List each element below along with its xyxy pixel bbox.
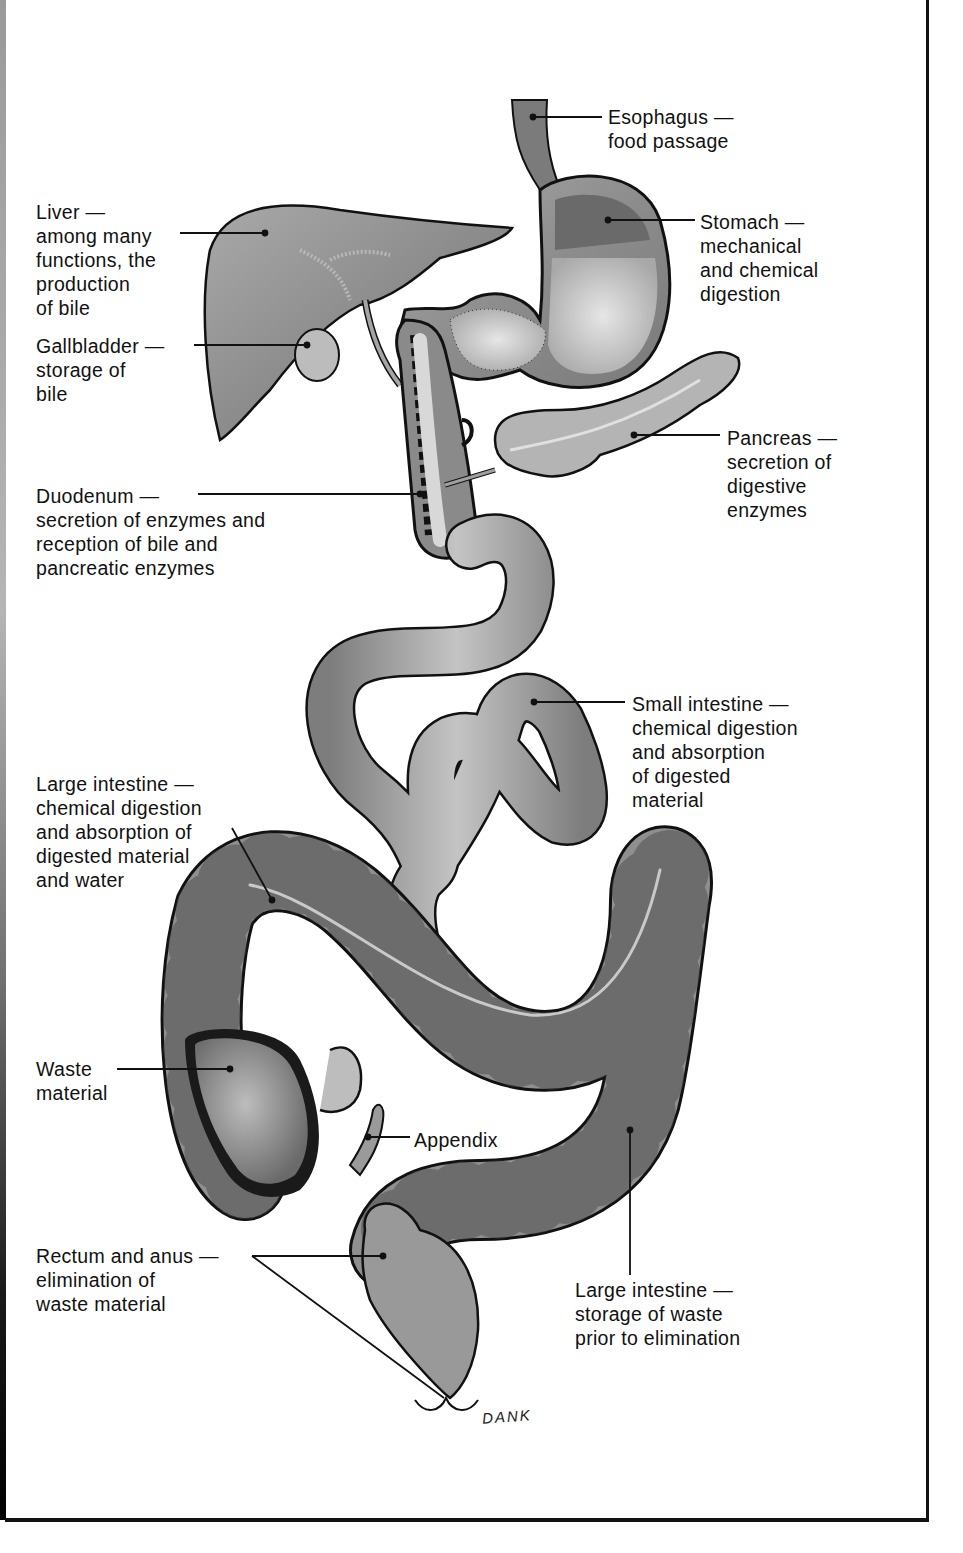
label-large-intestine-absorption: Large intestine — chemical digestion and… <box>36 772 202 892</box>
esophagus-organ <box>512 100 560 190</box>
label-rectum-anus: Rectum and anus — elimination of waste m… <box>36 1244 219 1316</box>
label-gallbladder: Gallbladder — storage of bile <box>36 334 165 406</box>
label-stomach: Stomach — mechanical and chemical digest… <box>700 210 819 306</box>
label-waste-material: Waste material <box>36 1057 108 1105</box>
label-appendix: Appendix <box>414 1128 498 1152</box>
label-duodenum: Duodenum — secretion of enzymes and rece… <box>36 484 265 580</box>
label-pancreas: Pancreas — secretion of digestive enzyme… <box>727 426 837 522</box>
label-small-intestine: Small intestine — chemical digestion and… <box>632 692 798 812</box>
artist-signature: DANK <box>481 1406 532 1426</box>
label-esophagus: Esophagus — food passage <box>608 105 734 153</box>
label-liver: Liver — among many functions, the produc… <box>36 200 156 320</box>
label-large-intestine-storage: Large intestine — storage of waste prior… <box>575 1278 740 1350</box>
